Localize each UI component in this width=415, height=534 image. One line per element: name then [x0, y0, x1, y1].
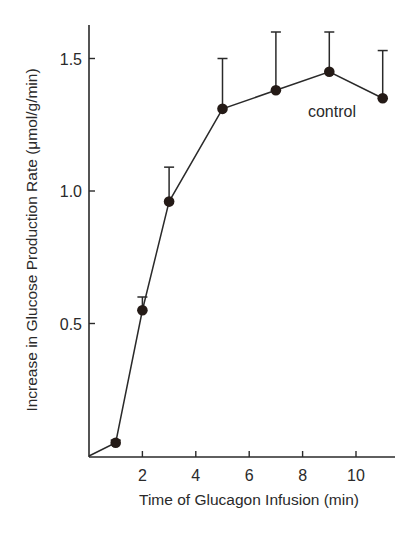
data-point: [137, 305, 148, 316]
axes: [89, 25, 395, 457]
series-control: [89, 32, 388, 456]
x-tick-label: 10: [347, 467, 365, 484]
x-axis-label: Time of Glucagon Infusion (min): [139, 491, 359, 508]
x-tick-label: 6: [245, 467, 254, 484]
series-annotation-control: control: [308, 103, 356, 120]
data-point: [377, 93, 388, 104]
y-tick-label: 1.0: [60, 183, 82, 200]
data-point: [324, 66, 335, 77]
data-point: [217, 104, 228, 115]
data-point: [164, 196, 175, 207]
data-point: [271, 85, 282, 96]
series-line: [89, 72, 383, 456]
x-tick-label: 4: [191, 467, 200, 484]
line-chart: 2468100.51.01.5 control Time of Glucagon…: [0, 0, 415, 534]
y-tick-label: 0.5: [60, 316, 82, 333]
x-tick-label: 2: [138, 467, 147, 484]
x-tick-label: 8: [298, 467, 307, 484]
data-point: [110, 437, 121, 448]
y-axis-label: Increase in Glucose Production Rate (μmo…: [23, 68, 40, 411]
y-tick-label: 1.5: [60, 51, 82, 68]
